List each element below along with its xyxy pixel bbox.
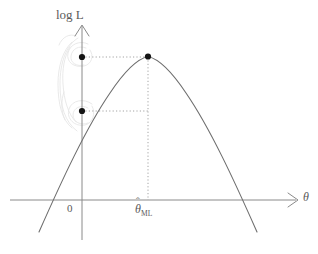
guide-lines [82, 57, 148, 200]
mle-tick-label: ˆθML [135, 203, 153, 218]
y-axis-label: log L [56, 8, 84, 21]
mle-symbol-wrapper: ˆθ [135, 203, 141, 215]
log-likelihood-figure: log L θ 0 ˆθML [0, 0, 318, 254]
figure-canvas [0, 0, 318, 254]
x-axis-label: θ [303, 191, 309, 203]
point-log-likelihood-at-zero [79, 108, 85, 114]
origin-tick-label: 0 [67, 203, 73, 214]
scribble-annotation [58, 35, 94, 131]
mle-subscript: ML [141, 209, 153, 218]
point-maximum-log-likelihood [145, 53, 151, 59]
point-upper-y-axis [79, 54, 85, 60]
mle-hat-mark: ˆ [135, 196, 141, 207]
